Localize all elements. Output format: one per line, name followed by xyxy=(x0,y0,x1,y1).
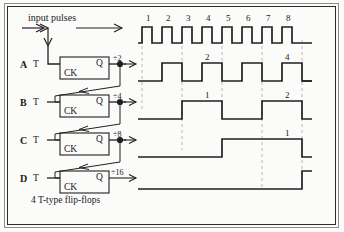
ff-b-output-node xyxy=(117,99,123,105)
feedback-b-to-c xyxy=(55,105,120,140)
waveform-row-d xyxy=(138,171,312,189)
waveform-row-a xyxy=(138,63,312,81)
ff-a-output-node xyxy=(117,61,123,67)
ripple-counter-figure: input pulses 4 T-type flip-flops A T CK … xyxy=(0,0,344,232)
waveform-row-c xyxy=(138,139,312,157)
waveform-row-b xyxy=(138,101,312,119)
input-arrow-in xyxy=(22,24,48,32)
circuit-drawing xyxy=(0,0,344,232)
input-bus-down xyxy=(44,28,52,46)
ff-a-t-wire xyxy=(48,46,60,64)
ff-c-box xyxy=(60,133,109,155)
feedback-c-to-d xyxy=(55,143,120,178)
ff-b-box xyxy=(60,95,109,117)
ff-c-output-node xyxy=(117,137,123,143)
feedback-a-to-b xyxy=(55,67,120,102)
waveform-input-pulses xyxy=(138,27,312,43)
ff-d-box xyxy=(60,171,109,193)
input-arrow-right xyxy=(76,24,122,32)
ff-b-output-arrow xyxy=(124,99,136,106)
ff-c-output-arrow xyxy=(124,137,136,144)
ff-a-output-arrow xyxy=(124,61,136,68)
ff-d-output-arrow xyxy=(109,175,136,182)
ff-a-box xyxy=(60,57,109,79)
